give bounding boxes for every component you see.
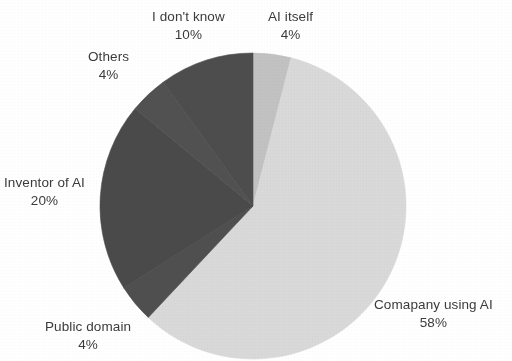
- pie-label-i-dont-know: I don't know 10%: [152, 8, 225, 44]
- pie-chart-figure: I don't know 10% AI itself 4% Others 4% …: [0, 0, 512, 361]
- pie-label-others-name: Others: [88, 48, 129, 66]
- pie-slice-group: [100, 53, 406, 359]
- pie-label-ai-itself-name: AI itself: [268, 8, 313, 26]
- pie-label-inventor-of-ai: Inventor of AI 20%: [4, 174, 85, 210]
- pie-label-i-dont-know-name: I don't know: [152, 8, 225, 26]
- pie-label-company-using-ai: Comapany using AI 58%: [374, 296, 493, 332]
- pie-label-i-dont-know-value: 10%: [152, 26, 225, 44]
- pie-label-others: Others 4%: [88, 48, 129, 84]
- pie-label-ai-itself-value: 4%: [268, 26, 313, 44]
- pie-label-company-using-ai-name: Comapany using AI: [374, 296, 493, 314]
- pie-label-public-domain: Public domain 4%: [45, 318, 131, 354]
- pie-label-company-using-ai-value: 58%: [374, 314, 493, 332]
- pie-label-inventor-of-ai-name: Inventor of AI: [4, 174, 85, 192]
- pie-label-others-value: 4%: [88, 66, 129, 84]
- pie-label-public-domain-value: 4%: [45, 336, 131, 354]
- pie-label-inventor-of-ai-value: 20%: [4, 192, 85, 210]
- pie-label-ai-itself: AI itself 4%: [268, 8, 313, 44]
- pie-label-public-domain-name: Public domain: [45, 318, 131, 336]
